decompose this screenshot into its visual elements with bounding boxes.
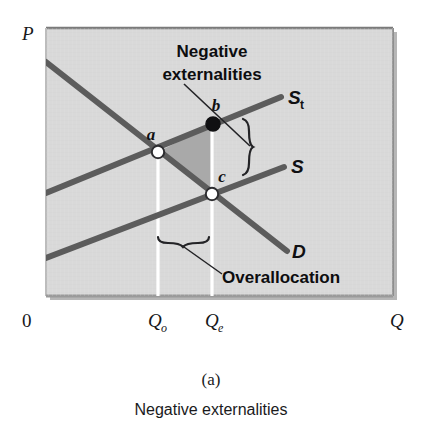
point-c-marker — [206, 188, 218, 200]
axis-origin-label: 0 — [22, 310, 32, 331]
axis-label-y: P — [21, 23, 34, 44]
x-tick-label-qo-sub: o — [161, 321, 167, 335]
curve-label-supply-with-tax-sub: t — [300, 98, 304, 112]
annotation-externalities-line1: Negative — [177, 42, 248, 61]
axis-label-x: Q — [390, 310, 404, 331]
point-b-marker — [206, 117, 220, 131]
caption-letter: (a) — [202, 370, 221, 389]
curve-label-supply: S — [291, 156, 304, 177]
point-b-label: b — [212, 96, 221, 115]
chart-canvas: a b c S t S D Negative externalities Ove… — [0, 0, 422, 437]
figure-negative-externalities: a b c S t S D Negative externalities Ove… — [0, 0, 422, 437]
point-c-label: c — [218, 167, 226, 186]
point-a-label: a — [147, 125, 156, 144]
x-tick-label-qe-sub: e — [218, 321, 224, 335]
curve-label-demand: D — [292, 241, 306, 262]
caption-title: Negative externalities — [135, 401, 288, 418]
point-a-marker — [152, 146, 164, 158]
annotation-overallocation: Overallocation — [222, 268, 340, 287]
x-tick-label-qo: Q — [148, 310, 162, 331]
annotation-externalities-line2: externalities — [162, 65, 261, 84]
x-tick-label-qe: Q — [205, 310, 219, 331]
